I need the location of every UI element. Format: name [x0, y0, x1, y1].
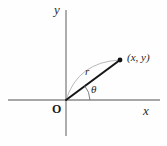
radius-label: r	[85, 66, 89, 77]
angle-theta-label: θ	[91, 84, 96, 95]
point-marker-dot	[118, 58, 123, 63]
x-axis-label: x	[143, 104, 149, 117]
angle-arc	[85, 86, 91, 101]
point-coordinates-label: (x, y)	[127, 52, 150, 63]
y-axis-label: y	[54, 3, 60, 16]
origin-label: O	[52, 103, 61, 115]
coordinate-diagram-svg	[0, 0, 167, 146]
polar-coordinate-figure: y x O (x, y) r θ	[0, 0, 167, 146]
